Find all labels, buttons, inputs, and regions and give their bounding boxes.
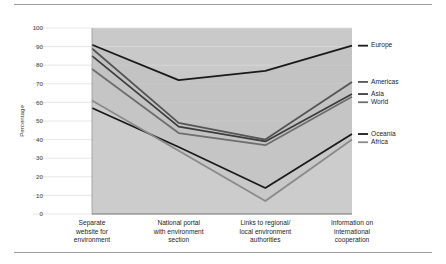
y-tick-label: 90 <box>36 43 43 50</box>
y-tick-label: 20 <box>36 173 43 180</box>
y-tick-label: 100 <box>33 24 44 31</box>
legend-label-africa: Africa <box>371 138 388 145</box>
x-category-label: Information oninternationalcooperation <box>331 219 373 244</box>
y-tick-label: 30 <box>36 154 43 161</box>
y-tick-label: 70 <box>36 80 43 87</box>
x-axis-category-labels: Separatewebsite forenvironmentNational p… <box>74 219 374 244</box>
chart-legend: EuropeAmericasAsiaWorldOceaniaAfrica <box>358 41 399 145</box>
legend-label-americas: Americas <box>371 78 399 85</box>
y-tick-label: 40 <box>36 136 43 143</box>
y-tick-label: 50 <box>36 117 43 124</box>
legend-label-world: World <box>371 98 388 105</box>
y-tick-label: 10 <box>36 192 43 199</box>
legend-label-asia: Asia <box>371 90 384 97</box>
y-tick-label: 80 <box>36 61 43 68</box>
y-tick-label: 60 <box>36 99 43 106</box>
x-category-label: National portalwith environmentsection <box>153 219 204 243</box>
legend-label-oceania: Oceania <box>371 130 396 137</box>
figure-container: 0102030405060708090100 Percentage Separa… <box>0 0 446 264</box>
y-tick-label: 0 <box>40 210 44 217</box>
line-chart: 0102030405060708090100 Percentage Separa… <box>0 0 446 264</box>
legend-label-europe: Europe <box>371 41 393 49</box>
y-axis-title-text: Percentage <box>18 105 25 137</box>
x-category-label: Links to regional/local environmentautho… <box>239 219 291 243</box>
x-category-label: Separatewebsite forenvironment <box>74 219 110 243</box>
y-axis-title: Percentage <box>18 105 25 137</box>
